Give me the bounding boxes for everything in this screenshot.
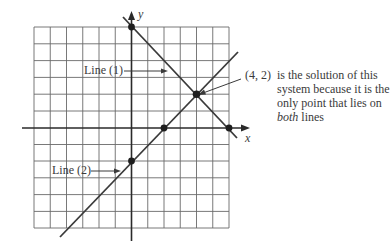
y-axis-label: y (138, 8, 143, 21)
x-axis-label: x (245, 132, 250, 145)
line-2-label: Line (2) (52, 164, 91, 177)
coordinate-plane (0, 0, 391, 250)
solution-point-text: (4, 2) (245, 68, 271, 82)
point-0-neg2 (128, 158, 135, 165)
axes (22, 16, 244, 241)
annotation-line-4: both lines (245, 110, 390, 124)
solution-annotation: (4, 2) is the solution of this system be… (245, 68, 390, 124)
annotation-line-1: (4, 2) is the solution of this (245, 68, 390, 82)
point-4-2-solution (193, 90, 201, 98)
line-1-label: Line (1) (84, 64, 123, 77)
label-arrows (91, 69, 241, 174)
point-6-0 (226, 125, 233, 132)
y-axis-arrow-icon (128, 11, 135, 20)
annotation-line-3: only point that lies on (245, 96, 390, 110)
point-0-6 (128, 24, 135, 31)
point-2-0 (161, 125, 168, 132)
annotation-line-2: system because it is the (245, 82, 390, 96)
